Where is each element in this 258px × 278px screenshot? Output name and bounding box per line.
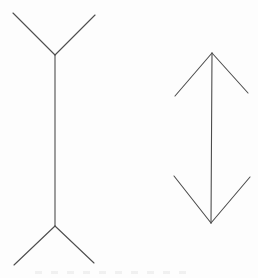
left-top-fin-right (55, 15, 95, 55)
right-shaft (211, 53, 212, 223)
right-top-fin-left (175, 53, 212, 96)
left-bottom-fin-left (14, 226, 55, 265)
illusion-figure-canvas (0, 0, 258, 278)
muller-lyer-figure (0, 0, 258, 278)
right-bottom-fin-left (174, 176, 211, 223)
right-bottom-fin-right (211, 177, 250, 223)
right-top-fin-right (212, 53, 248, 93)
left-top-fin-left (13, 13, 55, 55)
left-bottom-fin-right (55, 226, 94, 263)
